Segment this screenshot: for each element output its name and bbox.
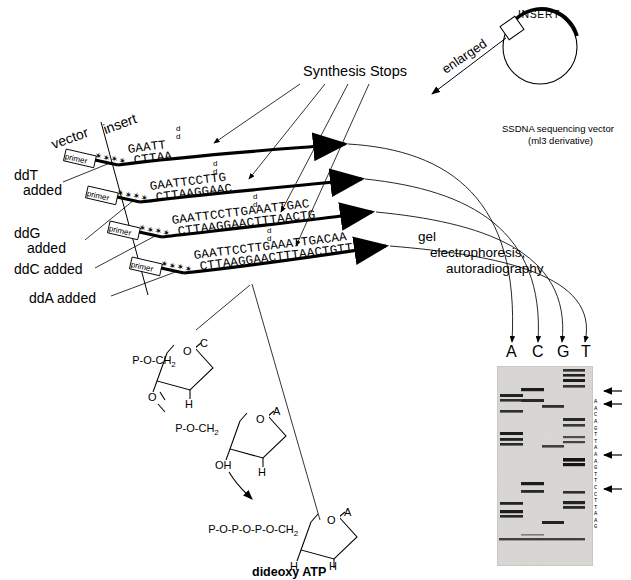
figure-canvas: AACAGTTAAAGTTCCTTAAG: [0, 0, 631, 580]
readout-arrow-markers: [604, 391, 622, 489]
readout-marker-layer: [0, 0, 631, 580]
